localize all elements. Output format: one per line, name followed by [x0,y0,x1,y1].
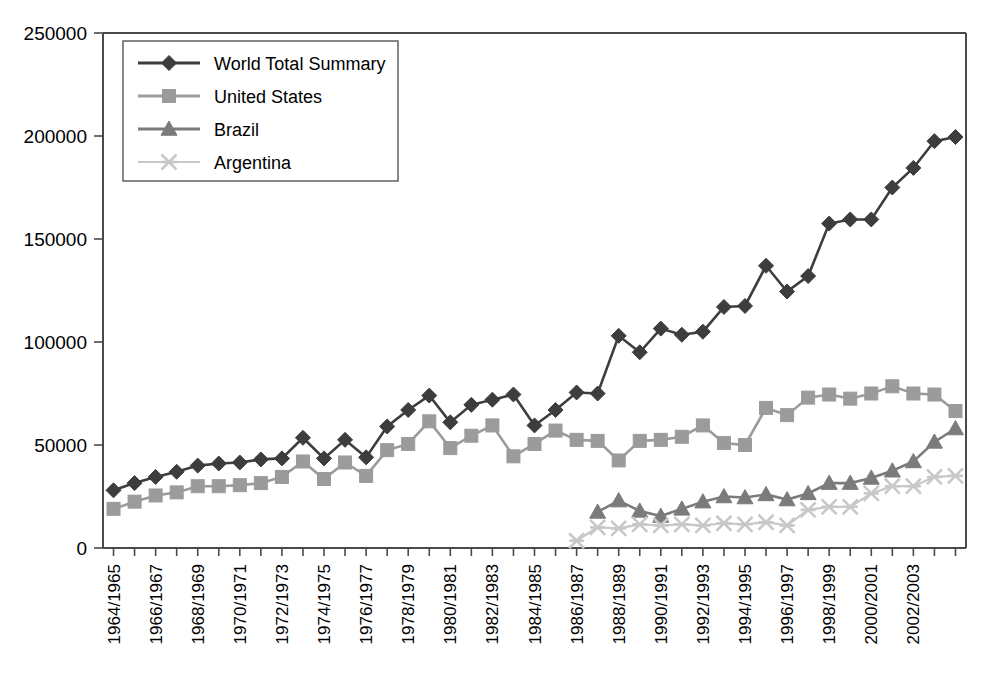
chart-container: 050000100000150000200000250000 1964/1965… [0,0,986,689]
data-point-square [865,387,878,400]
data-point-square [549,424,562,437]
x-tick-label: 1996/1997 [778,564,797,644]
x-tick-label: 1968/1969 [189,564,208,644]
x-tick-label: 1980/1981 [441,564,460,644]
data-point-square [339,456,352,469]
legend-label: United States [214,87,322,107]
x-tick-label: 2000/2001 [862,564,881,644]
data-point-square [149,489,162,502]
legend-label: Argentina [214,153,292,173]
x-tick-label: 1990/1991 [652,564,671,644]
data-point-square [275,470,288,483]
soybean-production-line-chart: 050000100000150000200000250000 1964/1965… [0,0,986,689]
data-point-square [254,477,267,490]
x-tick-label: 1978/1979 [399,564,418,644]
data-point-square [654,433,667,446]
data-point-square [528,437,541,450]
x-tick-label: 1974/1975 [315,564,334,644]
x-tick-label: 1988/1989 [610,564,629,644]
legend-label: World Total Summary [214,54,385,74]
y-tick-label: 150000 [24,229,87,250]
data-point-square [318,472,331,485]
y-tick-label: 250000 [24,23,87,44]
data-point-square [486,419,499,432]
y-tick-label: 0 [76,538,87,559]
data-point-square [633,434,646,447]
data-point-square [107,502,120,515]
data-point-square [907,387,920,400]
x-tick-label: 1966/1967 [147,564,166,644]
x-tick-label: 1972/1973 [273,564,292,644]
data-point-square [928,388,941,401]
data-point-square [507,450,520,463]
x-tick-label: 1964/1965 [105,564,124,644]
data-point-square [423,415,436,428]
data-point-square [738,439,751,452]
data-point-square [444,442,457,455]
data-point-square [760,401,773,414]
data-point-square [886,380,899,393]
data-point-square [170,486,183,499]
x-tick-label: 1984/1985 [526,564,545,644]
data-point-square [844,392,857,405]
y-tick-label: 100000 [24,332,87,353]
data-point-square [823,388,836,401]
x-tick-label: 1994/1995 [736,564,755,644]
data-point-square [675,430,688,443]
y-tick-label: 50000 [34,435,87,456]
data-point-square [163,90,176,103]
data-point-square [191,480,204,493]
data-point-square [802,391,815,404]
chart-legend: World Total SummaryUnited StatesBrazilAr… [123,41,398,181]
x-tick-label: 1976/1977 [357,564,376,644]
x-tick-label: 1998/1999 [820,564,839,644]
data-point-square [360,469,373,482]
data-point-square [381,444,394,457]
data-point-square [233,479,246,492]
x-tick-label: 1982/1983 [483,564,502,644]
data-point-square [402,437,415,450]
legend-label: Brazil [214,120,259,140]
x-tick-label: 1986/1987 [568,564,587,644]
data-point-square [717,436,730,449]
data-point-square [949,405,962,418]
data-point-square [128,495,141,508]
data-point-square [781,409,794,422]
data-point-square [612,454,625,467]
data-point-square [296,455,309,468]
y-tick-label: 200000 [24,126,87,147]
data-point-square [696,419,709,432]
x-axis-ticks [114,548,956,556]
x-tick-label: 2002/2003 [904,564,923,644]
data-point-square [570,433,583,446]
data-point-square [212,480,225,493]
data-point-square [591,434,604,447]
data-point-square [465,429,478,442]
x-tick-label: 1992/1993 [694,564,713,644]
x-tick-label: 1970/1971 [231,564,250,644]
